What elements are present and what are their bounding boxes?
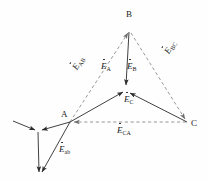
phasor-line-star-arm-left (13, 121, 35, 130)
phasor-symbol-E_C-base: E (124, 95, 130, 104)
phasor-diagram-canvas: B A C EA EB EC EAB EBC ECA Eab (0, 0, 208, 182)
phasor-line-star-arm-down (38, 132, 39, 172)
phasor-label-E_C: EC (124, 95, 134, 104)
phasor-line-E_C (130, 93, 187, 122)
phasor-subscript-E_C: C (130, 99, 134, 105)
phasor-subscript-E_A: A (107, 66, 111, 72)
phasor-symbol-E_CA-base: E (117, 126, 123, 135)
phasor-label-E_CA: ECA (117, 126, 131, 135)
diagram-svg (0, 0, 208, 182)
vertex-label-B: B (126, 10, 132, 19)
phasor-label-E_B: EB (127, 62, 137, 71)
phasor-label-E_A: EA (101, 62, 111, 71)
phasor-symbol-E_A-base: E (101, 62, 107, 71)
phasor-subscript-E_CA: CA (123, 130, 131, 136)
phasor-subscript-E_ab: ab (65, 149, 71, 155)
phasor-line-E_AB (70, 33, 128, 122)
phasor-line-E_A (70, 92, 123, 122)
phasor-label-E_ab: Eab (59, 145, 70, 154)
phasor-symbol-E_B-base: E (127, 62, 133, 71)
vertex-label-C: C (191, 119, 197, 128)
phasor-symbol-E_ab-base: E (59, 145, 65, 154)
phasor-subscript-E_B: B (133, 66, 137, 72)
vertex-label-A: A (61, 110, 68, 119)
